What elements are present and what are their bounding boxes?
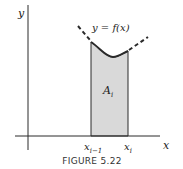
curve-dashed-left <box>78 26 90 40</box>
curve-dashed-right <box>129 37 148 50</box>
figure-canvas: y x y = f(x) Ai xi−1 xi FIGURE 5.22 <box>0 0 183 169</box>
figure-caption: FIGURE 5.22 <box>62 156 122 166</box>
x-axis-label: x <box>163 139 170 152</box>
curve-label: y = f(x) <box>91 22 130 33</box>
tick-label-x-i: xi <box>124 141 132 155</box>
tick-label-x-i-minus-1: xi−1 <box>84 141 102 155</box>
y-axis-label: y <box>17 7 25 20</box>
